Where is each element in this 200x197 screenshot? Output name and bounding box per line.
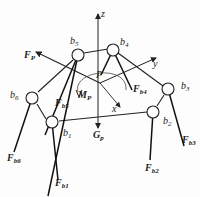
diagram-canvas: z y x P MP FP Gp b5 b4 b3 b2 b1 b6 Fb5 F… xyxy=(0,0,200,197)
y-axis-label: y xyxy=(152,58,158,69)
x-axis-label: x xyxy=(111,103,117,114)
fp-label: FP xyxy=(23,49,36,62)
fb1-label: Fb1 xyxy=(54,177,69,190)
z-axis-label: z xyxy=(100,8,105,19)
b1-label: b1 xyxy=(63,127,72,140)
b5-label: b5 xyxy=(70,35,79,48)
fb2-label: Fb2 xyxy=(144,162,159,175)
x-axis xyxy=(100,83,120,107)
joint-b4 xyxy=(107,44,119,56)
joint-b5 xyxy=(72,49,84,61)
fb4-label: Fb4 xyxy=(132,83,147,96)
joint-b6 xyxy=(26,92,38,104)
gravity-label: Gp xyxy=(93,129,104,142)
moment-label: MP xyxy=(77,89,92,102)
fb6-label: Fb6 xyxy=(6,152,21,165)
joint-b2 xyxy=(147,106,159,118)
b6-label: b6 xyxy=(10,89,19,102)
platform-outline xyxy=(37,49,164,121)
joint-b1 xyxy=(46,116,58,128)
joints xyxy=(26,44,174,128)
y-axis xyxy=(100,58,156,83)
platform-force-diagram: z y x P MP FP Gp b5 b4 b3 b2 b1 b6 Fb5 F… xyxy=(0,0,200,197)
b2-label: b2 xyxy=(163,115,172,128)
b4-label: b4 xyxy=(120,36,129,49)
joint-b3 xyxy=(162,83,174,95)
center-p-label: P xyxy=(95,69,102,80)
b3-label: b3 xyxy=(181,80,190,93)
